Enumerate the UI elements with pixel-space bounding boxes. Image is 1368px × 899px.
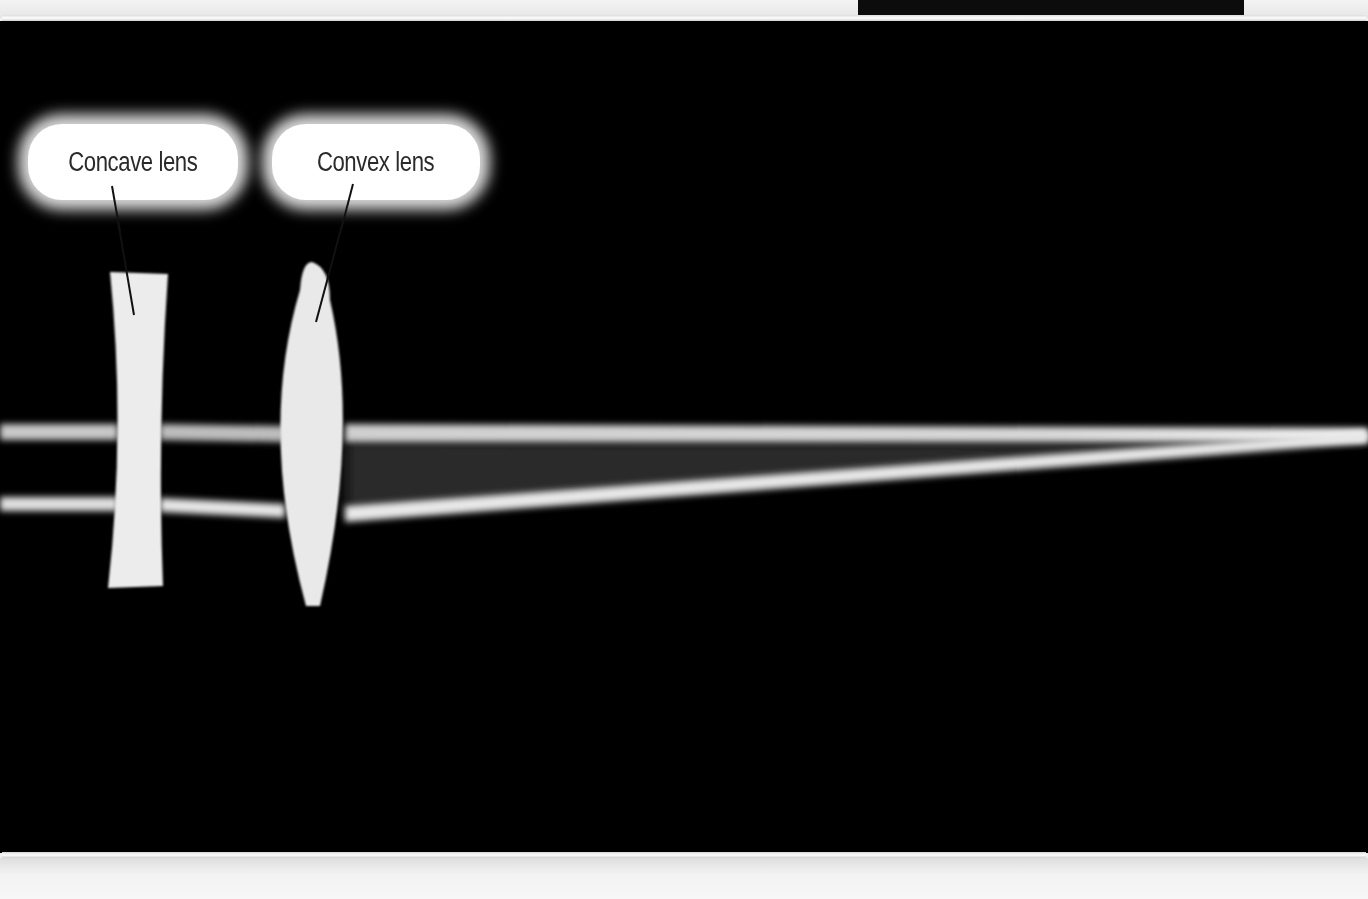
concave-lens-label-text: Concave lens xyxy=(68,147,197,178)
convex-lens-label: Convex lens xyxy=(272,124,480,200)
convex-leader-line xyxy=(316,184,353,322)
page-bottom-margin xyxy=(0,858,1368,899)
converging-beam xyxy=(345,424,1368,522)
diverged-rays xyxy=(160,424,285,518)
convex-lens-label-text: Convex lens xyxy=(317,147,434,178)
incoming-rays xyxy=(0,424,118,511)
concave-lens-label: Concave lens xyxy=(28,124,238,200)
convex-lens xyxy=(280,262,342,606)
